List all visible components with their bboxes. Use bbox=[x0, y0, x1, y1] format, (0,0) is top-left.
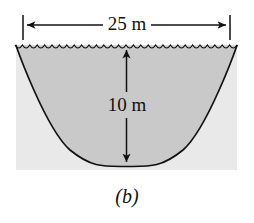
figure-caption: (b) bbox=[0, 186, 254, 206]
parabolic-channel-figure: 25 m 10 m (b) bbox=[0, 0, 254, 223]
width-dimension-label-text: 25 m bbox=[103, 13, 152, 34]
width-dimension-label: 25 m bbox=[0, 14, 254, 33]
depth-dimension-label: 10 m bbox=[0, 95, 254, 114]
depth-dimension-label-text: 10 m bbox=[104, 94, 151, 115]
